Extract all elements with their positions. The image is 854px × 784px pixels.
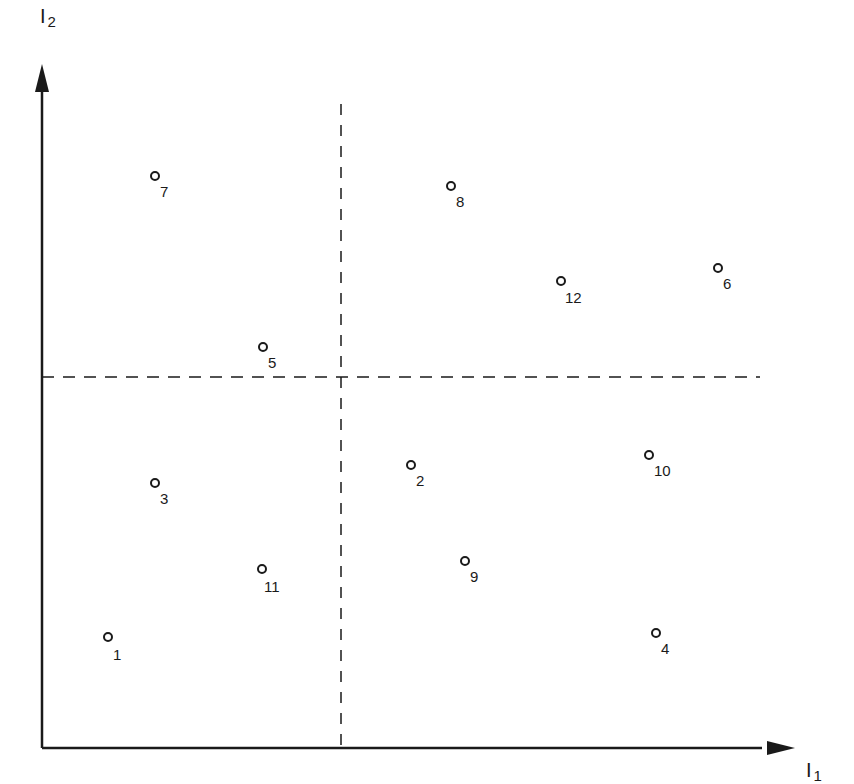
data-point-label: 1	[113, 647, 121, 662]
y-axis-label: I2	[40, 6, 56, 26]
data-point-circle-icon	[257, 564, 267, 574]
y-axis-arrow-icon	[35, 64, 49, 92]
data-point-circle-icon	[150, 171, 160, 181]
data-point-label: 12	[565, 290, 582, 305]
data-point-label: 4	[661, 641, 669, 656]
data-point-label: 5	[268, 355, 276, 370]
data-point-circle-icon	[713, 263, 723, 273]
data-point-circle-icon	[644, 450, 654, 460]
x-axis-label-text: I	[806, 759, 812, 781]
data-point-circle-icon	[556, 276, 566, 286]
data-point-circle-icon	[651, 628, 661, 638]
x-axis-label: I1	[806, 760, 822, 780]
data-point-label: 7	[160, 184, 168, 199]
data-point-label: 9	[470, 569, 478, 584]
data-point-label: 11	[264, 579, 280, 594]
y-axis-label-subscript: 2	[48, 13, 56, 30]
data-point-circle-icon	[446, 181, 456, 191]
data-point-circle-icon	[258, 342, 268, 352]
data-point-label: 10	[654, 463, 671, 478]
data-point-circle-icon	[460, 556, 470, 566]
data-point-label: 8	[456, 194, 464, 209]
x-axis-label-subscript: 1	[814, 767, 822, 784]
data-point-circle-icon	[150, 478, 160, 488]
data-point-circle-icon	[406, 460, 416, 470]
data-point-label: 3	[160, 491, 168, 506]
x-axis-arrow-icon	[767, 741, 795, 755]
y-axis-label-text: I	[40, 5, 46, 27]
data-point-circle-icon	[103, 632, 113, 642]
scatter-diagram	[0, 0, 854, 784]
data-point-label: 2	[416, 473, 424, 488]
data-point-label: 6	[723, 276, 731, 291]
